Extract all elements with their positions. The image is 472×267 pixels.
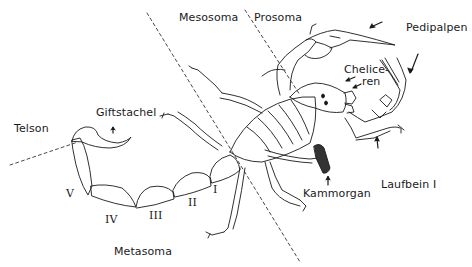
label-segment-v: V — [66, 188, 74, 200]
scorpion-anatomy-diagram: Mesosoma Prosoma Metasoma Telson Giftsta… — [0, 0, 472, 267]
label-prosoma: Prosoma — [254, 12, 302, 24]
label-segment-i: I — [213, 184, 217, 196]
walking-legs — [160, 66, 404, 238]
label-segment-iii: III — [149, 210, 162, 222]
region-divider-lines — [10, 10, 300, 262]
telson-divider — [10, 142, 78, 165]
label-cheliceren-line2: ren — [362, 76, 380, 88]
label-kammorgan: Kammorgan — [303, 188, 371, 200]
telson-sting — [72, 127, 131, 148]
label-mesosoma: Mesosoma — [179, 12, 238, 24]
label-pedipalpen: Pedipalpen — [406, 22, 468, 34]
metasoma-segments — [72, 138, 240, 208]
label-giftstachel: Giftstachel — [96, 107, 156, 119]
scorpion-drawing — [0, 0, 472, 267]
label-metasoma: Metasoma — [114, 246, 172, 258]
label-telson: Telson — [14, 123, 49, 135]
mesosoma-metasoma-divider — [147, 13, 300, 262]
comb-organ — [314, 144, 330, 185]
label-segment-ii: II — [188, 197, 197, 209]
label-laufbein-i: Laufbein I — [381, 179, 436, 191]
prosoma-carapace — [290, 83, 356, 113]
label-segment-iv: IV — [105, 214, 118, 226]
